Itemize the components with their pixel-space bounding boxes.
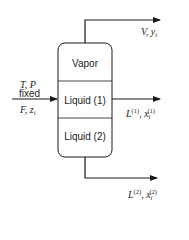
liquid1-outlet-label: L(1), xi(1): [126, 108, 155, 121]
vapor-outlet-label: V, yi: [141, 27, 157, 39]
zone-label-liquid1: Liquid (1): [58, 95, 112, 106]
zone-label-vapor: Vapor: [58, 58, 112, 69]
feed-stream-label: F, zi: [20, 105, 36, 117]
feed-conditions-fixed: fixed: [19, 89, 40, 99]
zone-label-liquid2: Liquid (2): [58, 131, 112, 142]
vapor-comp-sub: i: [155, 31, 157, 38]
liquid2-comp-sup: (2): [149, 188, 157, 195]
liquid2-outlet-arrow: [85, 157, 157, 178]
liquid2-outlet-label: L(2), xi(2): [128, 189, 157, 202]
liquid1-comp-sup: (1): [147, 107, 155, 114]
liquid1-comp-sub: i: [149, 113, 151, 120]
liquid2-comp-sub: i: [151, 194, 153, 201]
feed-comp-sub: i: [34, 109, 36, 116]
